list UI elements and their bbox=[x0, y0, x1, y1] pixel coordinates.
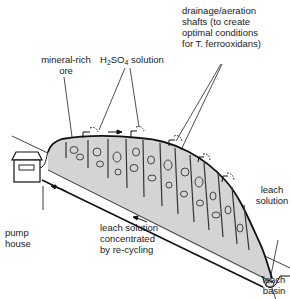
formula-h: H bbox=[100, 54, 107, 65]
label-line: house bbox=[5, 238, 31, 249]
label-line: solution bbox=[252, 195, 290, 206]
label-line: drainage/aeration bbox=[182, 5, 261, 16]
label-h2so4-solution: H2SO4 solution bbox=[100, 54, 164, 68]
pump-house bbox=[12, 152, 42, 182]
label-leach-solution-recycled: leach solution concentrated by re-cyclin… bbox=[100, 222, 158, 255]
label-line: mineral-rich bbox=[36, 54, 96, 65]
label-leach-basin: leach basin bbox=[256, 274, 290, 296]
label-line: shafts (to create bbox=[182, 16, 261, 27]
label-line: by re-cycling bbox=[100, 244, 158, 255]
label-line: leach bbox=[256, 274, 290, 285]
formula-suffix: solution bbox=[128, 54, 163, 65]
label-line: concentrated bbox=[100, 233, 158, 244]
label-line: leach bbox=[252, 184, 290, 195]
label-drainage-shafts: drainage/aeration shafts (to create opti… bbox=[182, 5, 261, 49]
label-pump-house: pump house bbox=[5, 227, 31, 249]
label-line: pump bbox=[5, 227, 31, 238]
label-leach-solution: leach solution bbox=[252, 184, 290, 206]
label-line: for T. ferrooxidans) bbox=[182, 38, 261, 49]
label-line: basin bbox=[256, 285, 290, 296]
formula-so: SO bbox=[111, 54, 125, 65]
label-mineral-rich-ore: mineral-rich ore bbox=[36, 54, 96, 76]
flow-arrow-top bbox=[108, 130, 122, 134]
label-line: leach solution bbox=[100, 222, 158, 233]
label-line: ore bbox=[36, 65, 96, 76]
label-line: optimal conditions bbox=[182, 27, 261, 38]
